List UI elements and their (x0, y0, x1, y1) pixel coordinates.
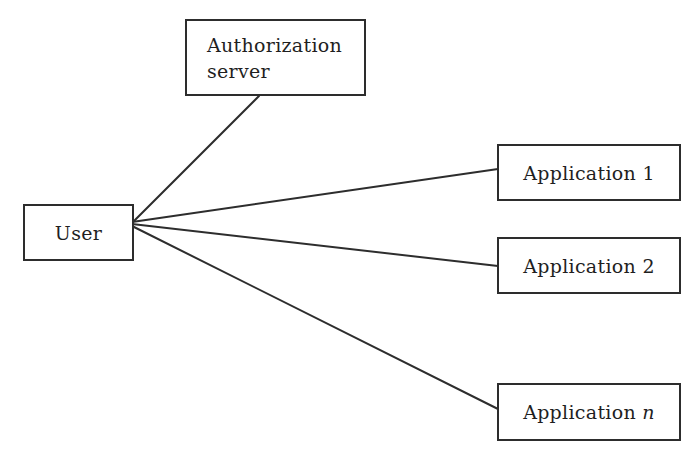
node-application-n-label-text: Application (523, 401, 642, 423)
node-authorization-server: Authorization server (185, 19, 366, 96)
edge-user-application-2 (132, 224, 498, 266)
node-application-2: Application 2 (497, 237, 681, 294)
node-application-n-label: Application n (523, 399, 655, 425)
node-authorization-server-label-line2: server (207, 58, 270, 84)
edge-user-application-n (132, 226, 498, 409)
node-user-label: User (55, 220, 102, 246)
edge-user-authorization-server (132, 96, 259, 223)
node-application-n-label-variable: n (642, 401, 655, 423)
node-application-1-label: Application 1 (523, 160, 655, 186)
diagram-canvas: Authorization server User Application 1 … (0, 0, 700, 463)
node-application-2-label: Application 2 (523, 253, 655, 279)
node-application-n: Application n (497, 383, 681, 441)
node-authorization-server-label-line1: Authorization (207, 32, 342, 58)
edge-user-application-1 (132, 169, 498, 222)
node-user: User (23, 204, 134, 261)
node-application-1: Application 1 (497, 144, 681, 201)
